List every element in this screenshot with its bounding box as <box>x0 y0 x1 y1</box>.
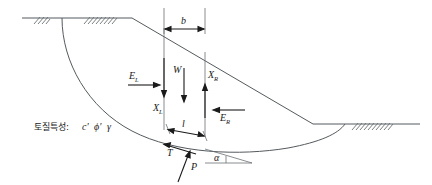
soil-property-unit-weight: γ <box>107 121 112 132</box>
force-arrow-W <box>182 68 187 102</box>
b-dimension-arrow <box>165 27 204 32</box>
slope-stability-diagram: b l W XL XR EL ER T <box>0 0 432 185</box>
force-arrow-XR <box>203 84 208 118</box>
soil-property-friction-angle: ϕ' <box>94 121 102 132</box>
label-XL: XL <box>152 102 163 115</box>
label-ER: ER <box>219 112 230 125</box>
l-dimension-arrow <box>168 129 204 137</box>
force-arrow-P <box>178 151 190 182</box>
label-l: l <box>182 118 185 129</box>
label-T: T <box>167 147 174 158</box>
soil-property-label: 토질특성: <box>34 121 69 132</box>
force-arrow-EL <box>128 83 160 88</box>
alpha-slope-reference <box>205 149 252 163</box>
label-P: P <box>190 161 197 172</box>
force-arrow-XL <box>162 58 167 97</box>
force-arrow-ER <box>213 108 245 113</box>
label-W: W <box>173 64 183 75</box>
soil-property-cohesion: c' <box>82 121 89 132</box>
label-XR: XR <box>207 69 218 82</box>
label-b: b <box>181 15 186 26</box>
label-alpha: α <box>214 152 220 163</box>
label-EL: EL <box>128 70 139 83</box>
